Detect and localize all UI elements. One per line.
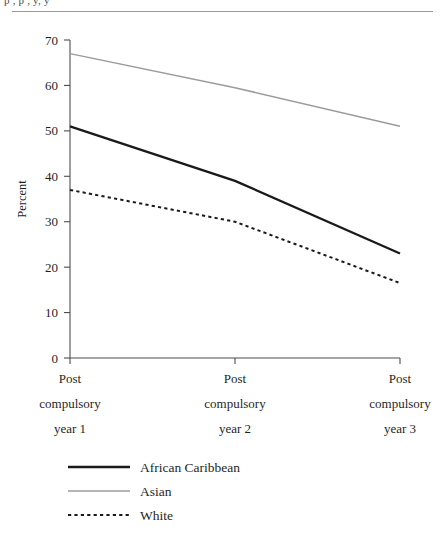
y-tick-label: 20 (45, 260, 58, 275)
chart-svg: 010203040506070 Percent Postcompulsoryye… (0, 0, 445, 556)
y-tick-label: 30 (45, 214, 58, 229)
y-tick-label: 70 (45, 33, 58, 48)
y-axis-title: Percent (15, 180, 29, 218)
legend-label: African Caribbean (140, 460, 240, 475)
y-axis-ticks: 010203040506070 (45, 33, 70, 366)
x-category-label: Post (224, 371, 247, 386)
x-category-label: Post (389, 371, 412, 386)
series-line-asian (70, 54, 400, 127)
line-chart-figure: 010203040506070 Percent Postcompulsoryye… (0, 0, 445, 556)
y-tick-label: 60 (45, 78, 58, 93)
legend-label: Asian (140, 484, 172, 499)
chart-series-group (70, 54, 400, 283)
y-tick-label: 40 (45, 169, 58, 184)
chart-legend: African CaribbeanAsianWhite (68, 460, 240, 523)
x-axis-ticks (70, 358, 400, 364)
x-category-label: year 1 (54, 421, 86, 436)
y-tick-label: 0 (52, 351, 59, 366)
y-tick-label: 10 (45, 305, 58, 320)
x-category-label: compulsory (204, 396, 266, 411)
x-category-label: year 3 (384, 421, 416, 436)
legend-label: White (140, 508, 173, 523)
y-tick-label: 50 (45, 123, 58, 138)
x-category-label: year 2 (219, 421, 251, 436)
x-axis-category-labels: Postcompulsoryyear 1Postcompulsoryyear 2… (39, 371, 431, 436)
x-category-label: Post (59, 371, 82, 386)
x-category-label: compulsory (369, 396, 431, 411)
series-line-white (70, 190, 400, 283)
series-line-african-caribbean (70, 126, 400, 253)
x-category-label: compulsory (39, 396, 101, 411)
